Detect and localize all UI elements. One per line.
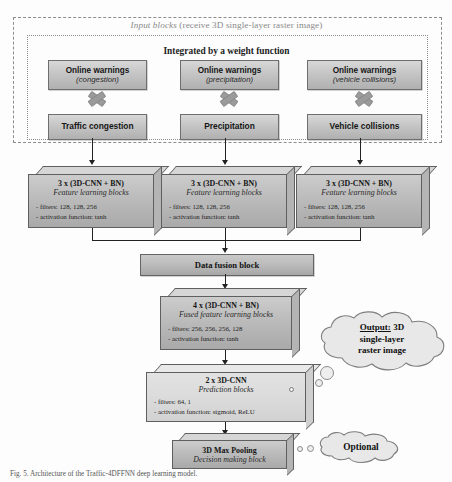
flb1-line2: - activation function: tanh: [36, 212, 146, 222]
box-top-face: [169, 166, 302, 174]
flb1-title: 3 x (3D-CNN + BN): [36, 179, 146, 188]
data-fusion-label: Data fusion block: [195, 260, 259, 270]
output-cloud-line3: raster image: [316, 345, 448, 357]
output-cloud-line1-underlined: Output:: [360, 322, 391, 332]
feature-learning-block-3[interactable]: 3 x (3D-CNN + BN) Feature learning block…: [296, 166, 430, 228]
box-top-face: [36, 166, 169, 174]
vehicle-collisions-tile[interactable]: Vehicle collisions: [307, 114, 422, 140]
box-side-face: [306, 364, 314, 430]
box-top-face: [168, 288, 307, 296]
output-cloud-tail-small: [315, 379, 323, 387]
connector-input-3: [360, 138, 361, 162]
output-cloud-line1-rest: 3D: [391, 322, 404, 332]
prediction-subtitle: Prediction blocks: [154, 385, 298, 394]
box-side-face: [287, 166, 295, 236]
box-side-face: [292, 288, 300, 358]
max-pooling-block[interactable]: 3D Max Pooling Decision making block: [172, 433, 294, 469]
output-cloud-line2: single-layer: [316, 334, 448, 346]
box-top-face: [179, 433, 300, 440]
fused-feature-learning-block[interactable]: 4 x (3D-CNN + BN) Fused feature learning…: [160, 288, 300, 350]
online-warnings-collisions-title: Online warnings: [333, 66, 397, 76]
precipitation-tile[interactable]: Precipitation: [180, 114, 279, 140]
figure-canvas: Input blocks (receive 3D single-layer ra…: [0, 0, 452, 482]
optional-cloud: Optional: [316, 431, 406, 465]
prediction-line2: - activation function: sigmoid, ReLU: [154, 407, 298, 417]
online-warnings-collisions-subtitle: (vehicle collisions): [333, 75, 396, 84]
optional-cloud-tail-dot-1: [297, 446, 303, 452]
flb3-line2: - activation function: tanh: [304, 212, 414, 222]
online-warnings-precipitation-subtitle: (precipitation): [206, 75, 253, 84]
box-top-face: [154, 364, 321, 372]
flb2-title: 3 x (3D-CNN + BN): [169, 179, 279, 188]
fused-title: 4 x (3D-CNN + BN): [168, 301, 284, 310]
online-warnings-precipitation[interactable]: Online warnings (precipitation): [180, 60, 279, 90]
prediction-line1: - filters: 64, 1: [154, 397, 298, 407]
fused-subtitle: Fused feature learning blocks: [168, 310, 284, 319]
online-warnings-congestion-subtitle: (congestion): [76, 75, 119, 84]
input-blocks-title: Input blocks (receive 3D single-layer ra…: [13, 20, 440, 30]
online-warnings-precipitation-title: Online warnings: [198, 66, 262, 76]
arrow-input-3: [357, 160, 363, 165]
arrow-to-fusion: [222, 248, 228, 253]
pooling-title: 3D Max Pooling: [176, 446, 283, 455]
connector-input-2: [225, 138, 226, 162]
prediction-block[interactable]: 2 x 3D-CNN Prediction blocks - filters: …: [146, 364, 314, 422]
precipitation-label: Precipitation: [204, 122, 255, 132]
output-cloud: Output: 3D single-layer raster image: [316, 310, 448, 376]
fused-line2: - activation function: tanh: [168, 334, 284, 344]
flb2-subtitle: Feature learning blocks: [169, 188, 279, 197]
input-blocks-title-rest: (receive 3D single-layer raster image): [177, 20, 322, 30]
integration-label: Integrated by a weight function: [27, 46, 426, 56]
connector-flb2-down: [225, 228, 226, 250]
feature-learning-block-2[interactable]: 3 x (3D-CNN + BN) Feature learning block…: [161, 166, 295, 228]
optional-cloud-text: Optional: [316, 441, 406, 453]
online-warnings-congestion-title: Online warnings: [66, 66, 130, 76]
multiply-cross-icon-3: [356, 93, 371, 105]
pooling-subtitle: Decision making block: [176, 455, 283, 464]
multiply-cross-icon-2: [221, 93, 236, 105]
online-warnings-collisions[interactable]: Online warnings (vehicle collisions): [307, 60, 422, 90]
box-side-face: [422, 166, 430, 236]
feature-learning-block-1[interactable]: 3 x (3D-CNN + BN) Feature learning block…: [28, 166, 162, 228]
flb2-line1: - filters: 128, 128, 256: [169, 202, 279, 212]
box-top-face: [304, 166, 437, 174]
traffic-congestion-tile[interactable]: Traffic congestion: [48, 114, 147, 140]
output-cloud-text: Output: 3D single-layer raster image: [316, 322, 448, 357]
flb3-title: 3 x (3D-CNN + BN): [304, 179, 414, 188]
flb1-subtitle: Feature learning blocks: [36, 188, 146, 197]
fused-line1: - filters: 256, 256, 256, 128: [168, 324, 284, 334]
optional-cloud-label: Optional: [343, 442, 378, 452]
figure-caption: Fig. 5. Architecture of the Traffic-4DFF…: [10, 470, 440, 478]
connector-merge-bus: [92, 240, 361, 241]
traffic-congestion-label: Traffic congestion: [61, 122, 133, 132]
vehicle-collisions-label: Vehicle collisions: [330, 122, 400, 132]
online-warnings-congestion[interactable]: Online warnings (congestion): [48, 60, 147, 90]
prediction-title: 2 x 3D-CNN: [154, 376, 298, 385]
flb2-line2: - activation function: tanh: [169, 212, 279, 222]
flb3-subtitle: Feature learning blocks: [304, 188, 414, 197]
input-blocks-title-italic: Input blocks: [131, 20, 177, 30]
multiply-cross-icon-1: [89, 93, 104, 105]
arrow-input-2: [222, 160, 228, 165]
data-fusion-block[interactable]: Data fusion block: [140, 254, 314, 276]
optional-cloud-tail-dot-2: [307, 445, 314, 452]
flb3-line1: - filters: 128, 128, 256: [304, 202, 414, 212]
connector-input-1: [92, 138, 93, 162]
arrow-input-1: [89, 160, 95, 165]
flb1-line1: - filters: 128, 128, 256: [36, 202, 146, 212]
